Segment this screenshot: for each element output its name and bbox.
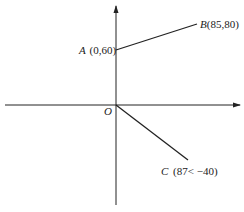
point-b-label: B(85,80) — [200, 18, 239, 31]
segment-oc — [116, 105, 188, 160]
origin-label: O — [104, 105, 112, 117]
segment-ab — [116, 24, 197, 50]
coordinate-diagram: A (0,60) B(85,80) O C (87< −40) — [0, 0, 244, 212]
point-c-label: C (87< −40) — [161, 165, 218, 178]
point-a-label: A (0,60) — [78, 44, 116, 57]
